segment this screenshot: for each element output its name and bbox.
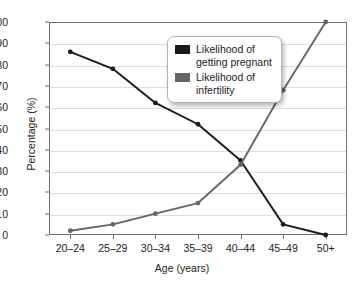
y-tick-label: 30	[0, 165, 8, 177]
legend-item-infertility: Likelihood of infertility	[175, 71, 272, 96]
y-tick-label: 80	[0, 59, 8, 71]
x-tick-label: 50+	[291, 242, 361, 254]
y-tick-label: 10	[0, 208, 8, 220]
y-tick-mark	[45, 107, 49, 108]
legend-swatch-infertility	[175, 73, 190, 82]
legend-label-pregnant: Likelihood of getting pregnant	[196, 43, 272, 68]
y-tick-label: 60	[0, 101, 8, 113]
y-tick-mark	[45, 22, 49, 23]
y-tick-label: 90	[0, 37, 8, 49]
x-tick-mark	[283, 235, 284, 239]
x-tick-mark	[70, 235, 71, 239]
y-tick-label: 70	[0, 80, 8, 92]
y-tick-label: 50	[0, 123, 8, 135]
gridline	[50, 215, 346, 216]
y-tick-mark	[45, 213, 49, 214]
chart-figure: ᠎ 0102030405060708090100 Percentage (%) …	[0, 0, 364, 286]
x-tick-mark	[241, 235, 242, 239]
gridline	[50, 108, 346, 109]
gridline	[50, 130, 346, 131]
x-axis-label: Age (years)	[0, 262, 364, 274]
legend-item-pregnant: Likelihood of getting pregnant	[175, 43, 272, 68]
gridline	[50, 193, 346, 194]
y-tick-mark	[45, 171, 49, 172]
legend-label-infertility: Likelihood of infertility	[196, 71, 255, 96]
y-tick-mark	[45, 149, 49, 150]
x-tick-mark	[113, 235, 114, 239]
y-tick-label: 0	[0, 229, 8, 241]
y-tick-mark	[45, 64, 49, 65]
x-tick-mark	[155, 235, 156, 239]
y-tick-mark	[45, 235, 49, 236]
y-tick-label: 20	[0, 186, 8, 198]
y-tick-mark	[45, 85, 49, 86]
cropped-title-sliver: ᠎	[0, 0, 364, 7]
gridline	[50, 172, 346, 173]
y-tick-mark	[45, 192, 49, 193]
x-tick-mark	[198, 235, 199, 239]
y-tick-mark	[45, 43, 49, 44]
x-tick-mark	[326, 235, 327, 239]
chart-legend: Likelihood of getting pregnant Likelihoo…	[167, 36, 282, 103]
y-axis-label: Percentage (%)	[25, 59, 37, 209]
legend-swatch-pregnant	[175, 45, 190, 54]
y-tick-mark	[45, 128, 49, 129]
gridline	[50, 151, 346, 152]
y-tick-label: 100	[0, 16, 8, 28]
y-tick-label: 40	[0, 144, 8, 156]
